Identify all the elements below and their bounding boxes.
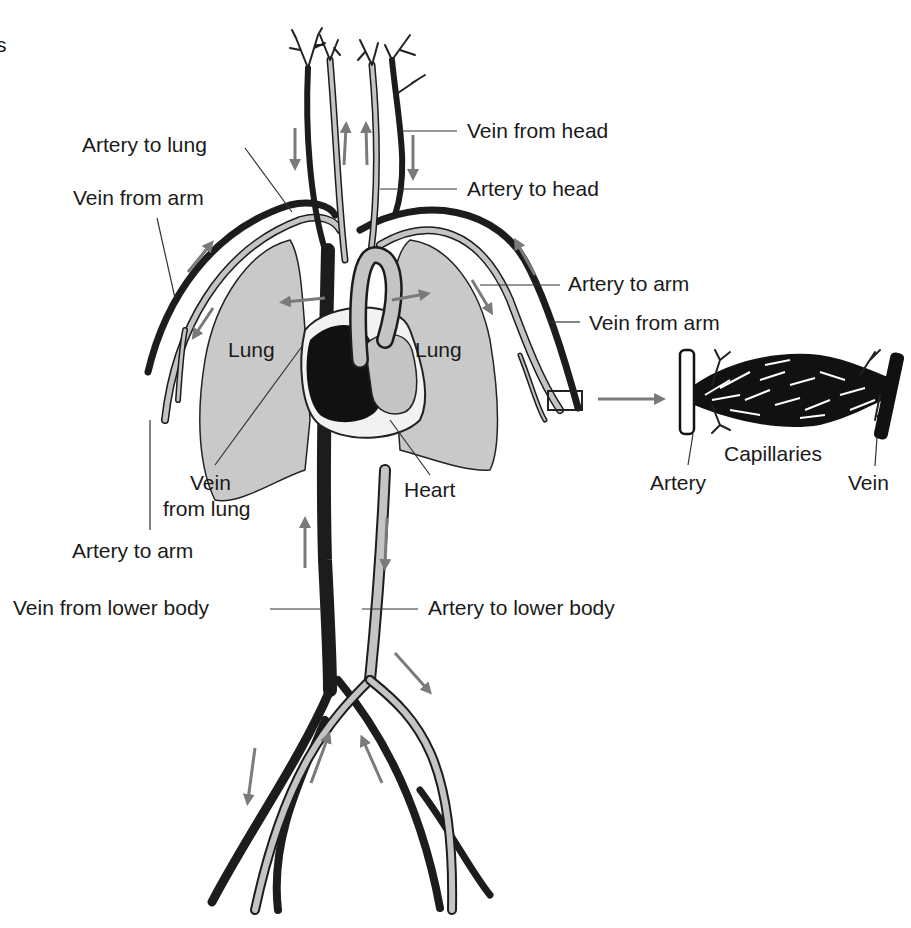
label-artery-to-head: Artery to head <box>467 177 599 200</box>
label-vein-from-lower-body: Vein from lower body <box>13 596 210 619</box>
capillary-detail <box>680 350 905 440</box>
label-artery-to-arm-left: Artery to arm <box>72 539 193 562</box>
label-vein-detail: Vein <box>848 471 889 494</box>
leg-vessels <box>212 680 490 910</box>
label-vein-from-arm-left: Vein from arm <box>73 186 204 209</box>
detail-artery-tube <box>680 350 694 434</box>
label-lung-left: Lung <box>228 338 275 361</box>
label-artery-to-arm-right: Artery to arm <box>568 272 689 295</box>
label-lung-right: Lung <box>415 338 462 361</box>
label-vein-from-lung-line1: Vein <box>190 471 231 494</box>
label-vein-from-head: Vein from head <box>467 119 608 142</box>
label-capillaries: Capillaries <box>724 442 822 465</box>
title-fragment: s <box>0 33 7 56</box>
label-vein-from-arm-right: Vein from arm <box>589 311 720 334</box>
label-artery-to-lung: Artery to lung <box>82 133 207 156</box>
capillary-bed <box>694 354 895 427</box>
label-artery-to-lower-body: Artery to lower body <box>428 596 615 619</box>
label-heart: Heart <box>404 478 456 501</box>
head-vessels <box>290 28 425 260</box>
circulatory-system-diagram: s <box>0 0 911 928</box>
label-artery-detail: Artery <box>650 471 707 494</box>
label-vein-from-lung-line2: from lung <box>163 497 251 520</box>
